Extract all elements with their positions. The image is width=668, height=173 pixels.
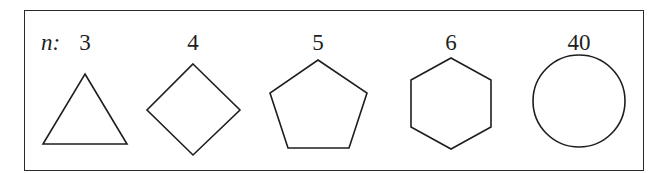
n-label-40: 40 bbox=[568, 30, 591, 55]
n-label-3: 3 bbox=[79, 30, 91, 55]
triangle-shape bbox=[43, 74, 127, 144]
pentagon-shape bbox=[270, 60, 367, 148]
square-shape bbox=[147, 64, 240, 155]
n-label-4: 4 bbox=[187, 30, 199, 55]
circle-shape bbox=[533, 55, 625, 147]
hexagon-shape bbox=[411, 58, 491, 149]
variable-label: n: bbox=[41, 30, 60, 55]
n-label-6: 6 bbox=[445, 30, 457, 55]
polygon-diagram: n: 3 4 5 6 40 bbox=[0, 0, 668, 173]
n-label-5: 5 bbox=[312, 30, 324, 55]
